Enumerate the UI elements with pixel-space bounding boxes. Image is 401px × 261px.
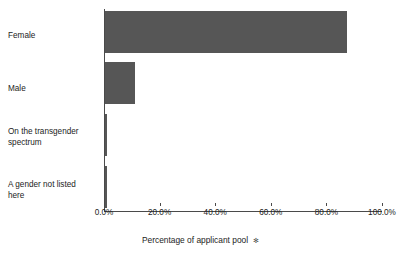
bar-female — [105, 11, 347, 53]
tick-mark-3 — [271, 203, 272, 206]
tick-mark-4 — [326, 203, 327, 206]
category-label-on-the-transgender-spectrum: On the transgender spectrum — [8, 127, 100, 148]
tick-label-5: 100.0% — [368, 208, 396, 218]
tick-label-4: 80.0% — [315, 208, 338, 218]
category-label-female: Female — [8, 31, 100, 42]
tick-mark-0 — [104, 203, 105, 206]
tick-mark-5 — [382, 203, 383, 206]
tick-label-2: 40.0% — [204, 208, 227, 218]
x-axis-title-text: Percentage of applicant pool — [142, 235, 248, 245]
bar-chart: Female Male On the transgender spectrum … — [0, 0, 401, 261]
tick-mark-1 — [160, 203, 161, 206]
category-label-male: Male — [8, 84, 100, 95]
bar-on-the-transgender-spectrum — [105, 114, 107, 156]
tick-label-0: 0.0% — [95, 208, 114, 218]
tick-label-1: 20.0% — [148, 208, 171, 218]
bar-male — [105, 62, 135, 104]
category-axis-labels: Female Male On the transgender spectrum … — [0, 9, 98, 211]
x-axis-title: Percentage of applicant pool✻ — [0, 234, 401, 247]
tick-label-3: 60.0% — [259, 208, 282, 218]
asterisk-marker-icon: ✻ — [253, 235, 259, 247]
category-label-a-gender-not-listed-here: A gender not listed here — [8, 180, 100, 201]
bar-a-gender-not-listed-here — [105, 166, 107, 208]
x-axis-ticks: 0.0% 20.0% 40.0% 60.0% 80.0% 100.0% — [104, 203, 382, 223]
tick-mark-2 — [215, 203, 216, 206]
plot-area — [104, 9, 382, 211]
